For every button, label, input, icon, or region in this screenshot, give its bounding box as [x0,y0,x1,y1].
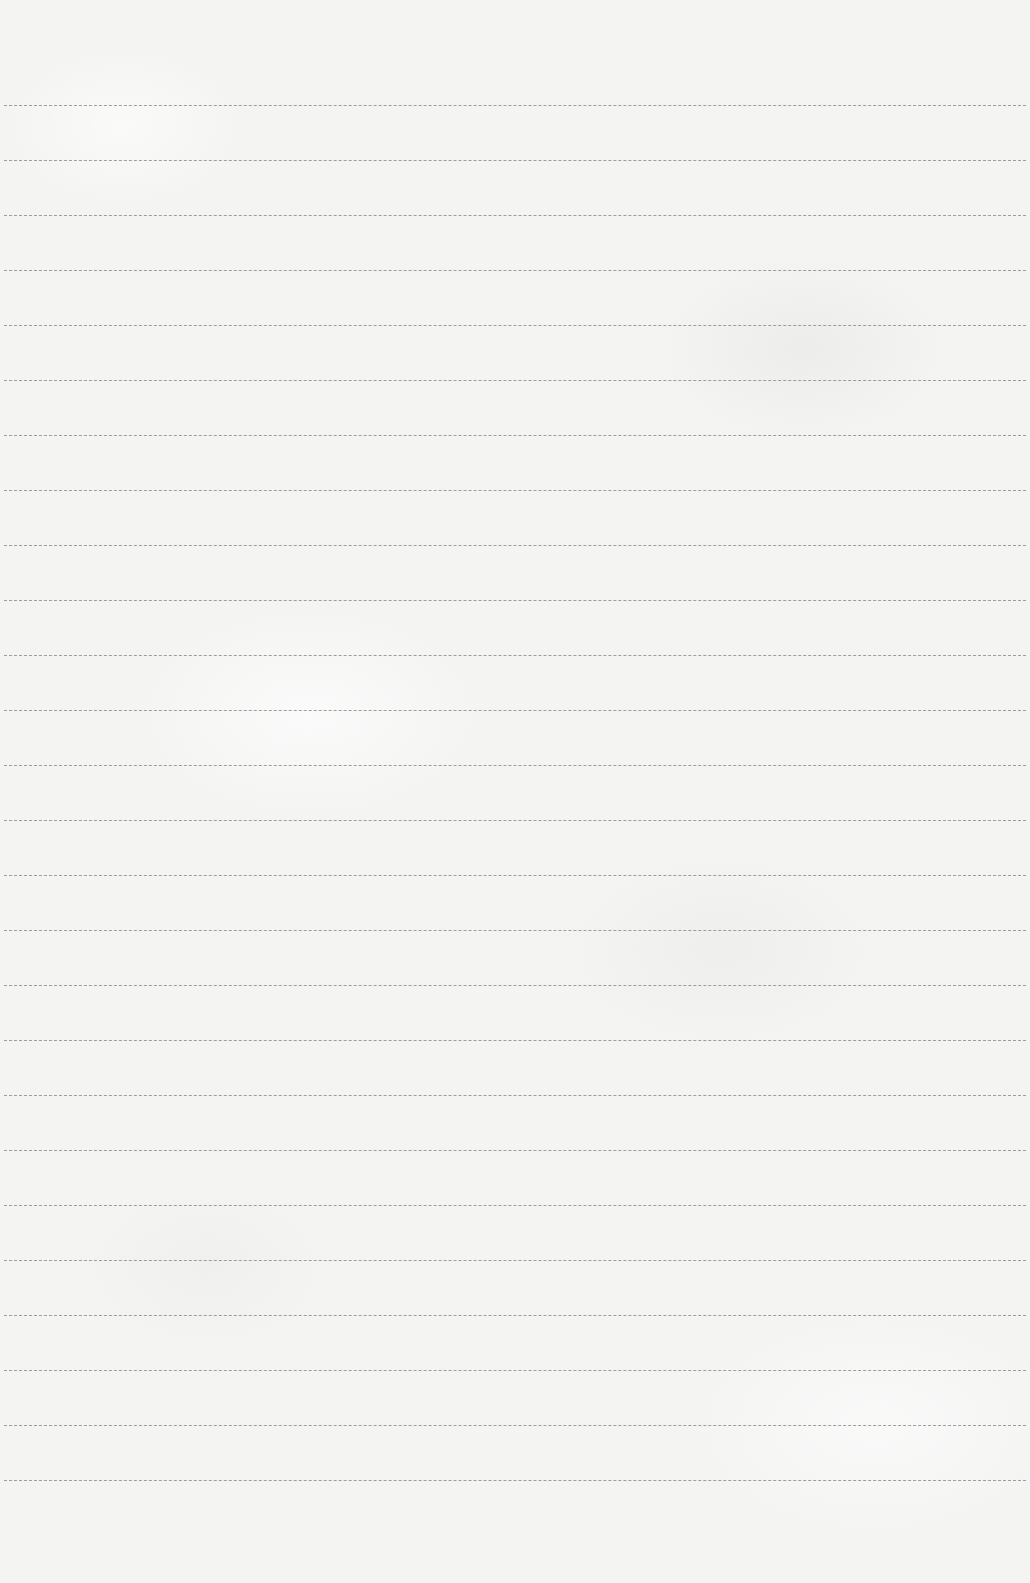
ruled-line [4,435,1026,436]
ruled-line [4,1260,1026,1261]
ruled-line [4,1205,1026,1206]
ruled-line [4,1040,1026,1041]
ruled-line [4,1150,1026,1151]
ruled-line [4,1370,1026,1371]
ruled-line [4,600,1026,601]
ruled-line [4,380,1026,381]
ruled-line [4,105,1026,106]
ruled-line [4,820,1026,821]
ruled-line [4,655,1026,656]
ruled-line [4,1425,1026,1426]
ruled-line [4,490,1026,491]
ruled-line [4,160,1026,161]
ruled-line [4,270,1026,271]
ruled-line [4,1315,1026,1316]
ruled-line [4,875,1026,876]
ruled-line [4,985,1026,986]
ruled-line [4,765,1026,766]
ruled-line [4,545,1026,546]
ruled-line [4,215,1026,216]
ruled-line [4,1480,1026,1481]
lined-paper-sheet [0,0,1030,1583]
ruled-line [4,325,1026,326]
ruled-line [4,1095,1026,1096]
ruled-line [4,710,1026,711]
ruled-line [4,930,1026,931]
